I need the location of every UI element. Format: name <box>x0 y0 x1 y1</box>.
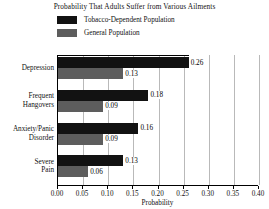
bar-value-label: 0.06 <box>88 168 103 176</box>
y-axis-category-line: Hangovers <box>0 101 54 109</box>
y-axis-category-line: Pain <box>0 166 54 174</box>
bar <box>58 90 148 101</box>
legend-item-general-population: General Population <box>57 27 175 38</box>
bar-value-label: 0.13 <box>123 157 138 165</box>
x-axis-title: Probability <box>57 199 258 207</box>
bar-row: 0.09 <box>58 134 258 145</box>
bar-row: 0.18 <box>58 90 258 101</box>
gridline <box>259 55 260 185</box>
chart-title: Probability That Adults Suffer from Vari… <box>0 2 269 11</box>
bar-group: 0.160.09 <box>58 123 258 145</box>
bar-group: 0.130.06 <box>58 155 258 177</box>
bar-value-label: 0.09 <box>103 135 118 143</box>
x-axis-tick-label: 0.10 <box>101 190 114 198</box>
x-axis-tick-label: 0.00 <box>51 190 64 198</box>
x-axis-tick-label: 0.40 <box>252 190 265 198</box>
y-axis-category-line: Anxiety/Panic <box>0 125 54 133</box>
bar <box>58 101 103 112</box>
y-axis-category-line: Severe <box>0 158 54 166</box>
legend-swatch-tobacco <box>57 16 77 24</box>
x-axis-tick <box>132 186 133 189</box>
x-axis-tick <box>233 186 234 189</box>
bar-value-label: 0.09 <box>103 102 118 110</box>
y-axis-category-1: Depression <box>0 64 54 72</box>
legend-item-tobacco-dependent-population: Tobacco-Dependent Population <box>57 14 175 25</box>
bar-chart: Probability That Adults Suffer from Vari… <box>0 0 269 209</box>
legend-swatch-general <box>57 29 77 37</box>
legend-label-tobacco: Tobacco-Dependent Population <box>84 16 175 24</box>
bar <box>58 166 88 177</box>
x-axis-tick-label: 0.35 <box>227 190 240 198</box>
x-axis-tick-label: 0.15 <box>126 190 139 198</box>
y-axis-category-line: Depression <box>0 64 54 72</box>
bar <box>58 134 103 145</box>
bar <box>58 123 138 134</box>
y-axis-category-line: Frequent <box>0 92 54 100</box>
x-axis-tick <box>208 186 209 189</box>
y-axis-category-2: FrequentHangovers <box>0 92 54 109</box>
x-axis-tick-label: 0.20 <box>151 190 164 198</box>
plot-area: 0.260.130.180.090.160.090.130.06 <box>57 55 258 186</box>
bar-value-label: 0.13 <box>123 70 138 78</box>
x-axis-tick <box>107 186 108 189</box>
x-axis-tick <box>82 186 83 189</box>
y-axis-category-3: Anxiety/PanicDisorder <box>0 125 54 142</box>
x-axis-tick <box>57 186 58 189</box>
x-axis-tick-label: 0.30 <box>201 190 214 198</box>
bar-row: 0.13 <box>58 68 258 79</box>
x-axis: Probability 0.000.050.100.150.200.250.30… <box>57 186 258 208</box>
x-axis-tick-label: 0.05 <box>76 190 89 198</box>
bar <box>58 68 123 79</box>
bar-row: 0.06 <box>58 166 258 177</box>
y-axis-category-line: Disorder <box>0 134 54 142</box>
x-axis-tick <box>183 186 184 189</box>
bar-group: 0.260.13 <box>58 57 258 79</box>
x-axis-tick <box>158 186 159 189</box>
x-axis-tick-label: 0.25 <box>176 190 189 198</box>
bar-group: 0.180.09 <box>58 90 258 112</box>
bar-row: 0.26 <box>58 57 258 68</box>
x-axis-tick <box>258 186 259 189</box>
plot-top-rule <box>58 55 189 56</box>
bar-row: 0.09 <box>58 101 258 112</box>
legend-label-general: General Population <box>84 29 140 37</box>
bar-value-label: 0.26 <box>189 59 204 67</box>
bar-row: 0.16 <box>58 123 258 134</box>
bar <box>58 57 189 68</box>
bar-value-label: 0.16 <box>138 124 153 132</box>
bar-row: 0.13 <box>58 155 258 166</box>
bar <box>58 155 123 166</box>
bar-value-label: 0.18 <box>148 91 163 99</box>
y-axis-category-4: SeverePain <box>0 158 54 175</box>
chart-legend: Tobacco-Dependent Population General Pop… <box>57 14 175 40</box>
